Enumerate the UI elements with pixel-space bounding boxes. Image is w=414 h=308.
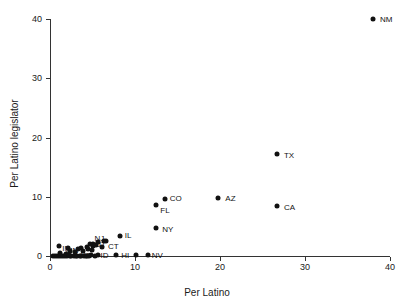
data-point [154,226,159,231]
data-point [104,238,109,243]
y-tick-mark [46,78,50,79]
data-point [93,242,98,247]
x-tick-mark [220,257,221,261]
x-tick-mark [135,257,136,261]
data-point [216,195,221,200]
y-axis-line [50,19,51,256]
x-tick-mark [305,257,306,261]
x-tick-label: 30 [300,262,310,272]
data-point-label: IL [125,230,132,239]
data-point [68,248,73,253]
plot-area: NMTXCAAZCOFLNYILCTNVHIIDKSUTNJMNIN [0,0,414,308]
data-point-label: IN [62,243,70,252]
data-point [102,239,107,244]
data-point-label: TX [284,151,294,160]
data-point-label: FL [160,206,169,215]
data-point [84,244,89,249]
data-point [154,203,159,208]
data-point [162,197,167,202]
data-point-label: CT [108,241,119,250]
data-point [76,247,81,252]
data-point-label: MN [66,246,78,255]
data-point [81,249,86,254]
scatter-chart-figure: 010203040 010203040 NMTXCAAZCOFLNYILCTNV… [0,0,414,308]
data-point-label: NY [162,225,173,234]
x-tick-label: 20 [215,262,225,272]
data-point [87,242,92,247]
data-point-label: NJ [95,233,105,242]
data-point-label: AZ [225,193,235,202]
data-point [78,245,83,250]
data-point [72,250,77,255]
data-point [86,246,91,251]
data-point [89,248,94,253]
y-tick-mark [46,19,50,20]
y-tick-label: 10 [20,192,42,202]
y-tick-label: 30 [20,73,42,83]
data-point-label: UT [95,239,106,248]
data-point [91,243,96,248]
x-tick-mark [50,257,51,261]
data-point [90,241,95,246]
data-point [117,233,122,238]
y-tick-mark [46,256,50,257]
y-tick-label: 0 [20,251,42,261]
y-tick-label: 20 [20,133,42,143]
y-tick-mark [46,138,50,139]
data-point-label: CA [284,203,295,212]
data-point [371,17,376,22]
x-tick-mark [390,257,391,261]
data-point [96,240,101,245]
data-point [99,245,104,250]
y-axis-label: Per Latino legislator [9,84,20,204]
data-point-label: NM [380,15,392,24]
data-point-label: CO [170,194,182,203]
x-axis-label: Per Latino [0,287,414,298]
data-point [57,243,62,248]
data-point [274,204,279,209]
x-tick-label: 0 [47,262,52,272]
data-point [274,152,279,157]
data-point [65,246,70,251]
y-tick-label: 40 [20,14,42,24]
x-tick-label: 40 [385,262,395,272]
x-tick-label: 10 [130,262,140,272]
data-point [58,251,63,256]
y-tick-mark [46,197,50,198]
